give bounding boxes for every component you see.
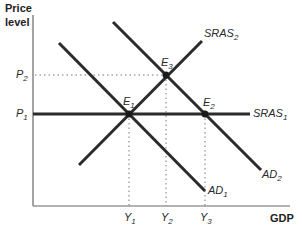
e3-label: E3 [161, 57, 173, 71]
sras2-curve [79, 41, 202, 165]
ad1-label: AD1 [208, 185, 228, 199]
y-axis-title-line2: level [5, 17, 29, 28]
sras2-label: SRAS2 [204, 28, 238, 42]
p2-label: P2 [16, 69, 28, 83]
y3-label: Y3 [200, 212, 212, 226]
e2-point [202, 111, 209, 118]
y-axis-title-line1: Price [5, 3, 32, 14]
y1-label: Y1 [124, 212, 136, 226]
e1-point [126, 111, 133, 118]
ad1-curve [59, 43, 205, 191]
x-axis-title: GDP [270, 213, 294, 224]
ad2-curve [113, 22, 261, 170]
e3-point [163, 72, 170, 79]
e1-label: E1 [123, 96, 135, 110]
ad-as-diagram: Price level GDP P2 P1 Y1 Y2 Y3 SRAS2 SRA… [0, 0, 302, 232]
y2-label: Y2 [161, 212, 173, 226]
e2-label: E2 [203, 97, 215, 111]
p1-label: P1 [16, 108, 28, 122]
sras1-label: SRAS1 [253, 108, 287, 122]
ad2-label: AD2 [262, 169, 282, 183]
